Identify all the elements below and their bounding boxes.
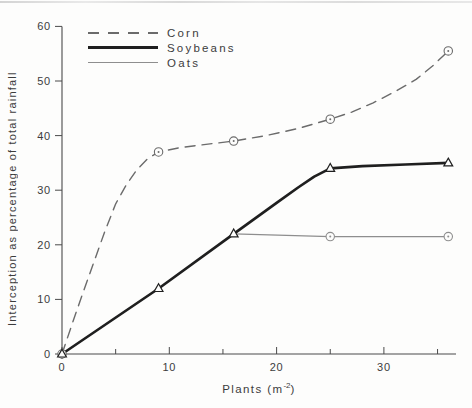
ticks [55, 26, 438, 354]
legend-item-oats: Oats [88, 57, 236, 68]
y-tick-label: 20 [37, 239, 51, 251]
y-tick-label: 0 [44, 348, 51, 360]
legend-label-soybeans: Soybeans [167, 42, 236, 54]
y-axis-title: Interception as percentage of total rain… [4, 60, 20, 338]
legend-label-oats: Oats [167, 57, 200, 69]
x-tick-label: 20 [270, 361, 284, 373]
corn-line-sample [88, 32, 158, 34]
legend-item-soybeans: Soybeans [88, 42, 236, 53]
y-tick-label: 40 [37, 130, 51, 142]
x-tick-label: 10 [162, 361, 176, 373]
series-soybeans-markers [58, 158, 453, 357]
tick-labels: 01020304050600102030 [37, 20, 391, 373]
x-axis-title: Plants (m-2) [199, 381, 319, 395]
y-tick-label: 60 [37, 20, 51, 32]
x-axis-title-prefix: Plants (m [222, 383, 283, 395]
x-tick-label: 30 [377, 361, 391, 373]
y-tick-label: 30 [37, 184, 51, 196]
legend-item-corn: Corn [88, 27, 236, 38]
chart-canvas: 01020304050600102030 [0, 0, 472, 408]
legend: Corn Soybeans Oats [88, 27, 236, 68]
x-axis-title-suffix: ) [291, 383, 296, 395]
legend-label-corn: Corn [167, 27, 201, 39]
oats-line-sample [88, 62, 158, 63]
series-oats-line [234, 234, 449, 237]
y-tick-label: 50 [37, 75, 51, 87]
series-corn-line [62, 51, 448, 354]
axes [62, 26, 456, 359]
figure: 01020304050600102030 Corn Soybeans Oats … [0, 0, 472, 408]
soybeans-line-sample [88, 46, 158, 49]
x-tick-label: 0 [59, 361, 66, 373]
series-soybeans-line [62, 163, 448, 354]
y-tick-label: 10 [37, 293, 51, 305]
x-axis-title-exponent: -2 [283, 381, 290, 390]
